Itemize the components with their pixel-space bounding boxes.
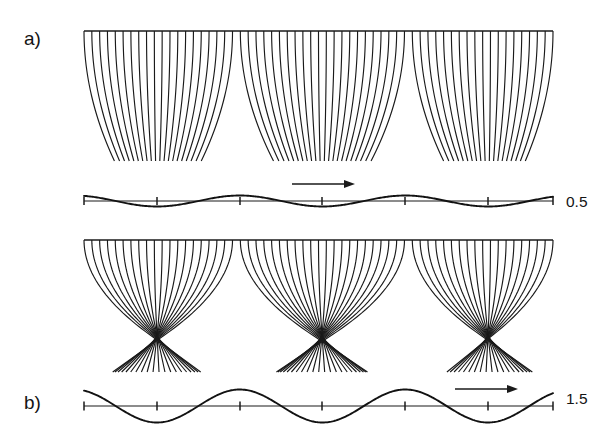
ray-caustic-figure: a) 0.5 b) bbox=[0, 0, 608, 438]
panel-a-amplitude-label: 0.5 bbox=[566, 193, 588, 210]
panel-a-label: a) bbox=[24, 28, 41, 49]
panel-b-label: b) bbox=[24, 392, 41, 413]
panel-b-amplitude-label: 1.5 bbox=[566, 390, 588, 407]
figure-root: a) 0.5 b) bbox=[0, 0, 608, 438]
